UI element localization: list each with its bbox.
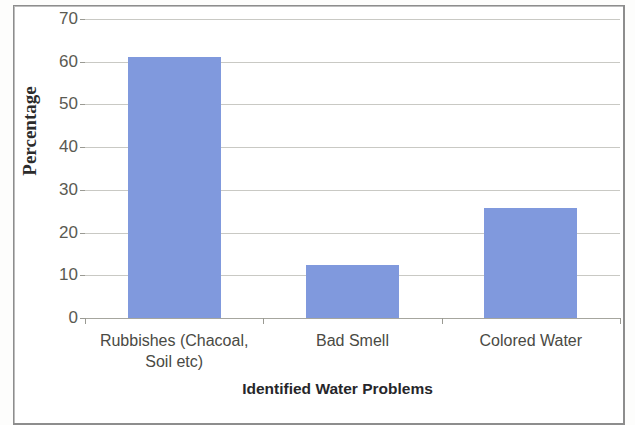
x-tickmark	[263, 318, 264, 324]
x-category-label-line: Rubbishes (Chacoal,	[85, 330, 263, 351]
x-category-label: Rubbishes (Chacoal,Soil etc)	[85, 330, 263, 372]
bar	[128, 57, 221, 318]
y-tickmark-10	[80, 275, 85, 276]
x-category-label-line: Colored Water	[442, 330, 620, 351]
y-tickmark-70	[80, 19, 85, 20]
y-tickmark-60	[80, 62, 85, 63]
gridline-70	[85, 19, 620, 20]
y-tick-label-70: 70	[38, 9, 78, 29]
x-category-label-line: Soil etc)	[85, 351, 263, 372]
x-tickmark	[442, 318, 443, 324]
y-tickmark-30	[80, 190, 85, 191]
y-tickmark-40	[80, 147, 85, 148]
y-tickmark-50	[80, 104, 85, 105]
y-axis-tick-labels: 010203040506070	[38, 0, 78, 413]
x-category-label: Bad Smell	[263, 330, 441, 351]
x-axis-title: Identified Water Problems	[0, 380, 635, 398]
plot-area	[85, 19, 620, 318]
gridline-0	[85, 318, 620, 319]
y-tick-label-50: 50	[38, 94, 78, 114]
y-tick-label-20: 20	[38, 223, 78, 243]
x-category-label-line: Bad Smell	[263, 330, 441, 351]
y-tick-label-30: 30	[38, 180, 78, 200]
bar	[306, 265, 399, 318]
y-tickmark-20	[80, 233, 85, 234]
x-category-label: Colored Water	[442, 330, 620, 351]
bar	[484, 208, 577, 318]
y-tick-label-10: 10	[38, 265, 78, 285]
y-tick-label-60: 60	[38, 52, 78, 72]
y-tick-label-40: 40	[38, 137, 78, 157]
y-tick-label-0: 0	[38, 308, 78, 328]
x-tickmark	[620, 318, 621, 324]
x-tickmark	[85, 318, 86, 324]
